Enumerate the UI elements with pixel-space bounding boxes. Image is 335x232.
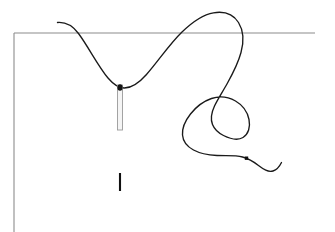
thread-endpoint-dot	[245, 157, 248, 160]
drawing-canvas	[0, 0, 335, 232]
needle-eye	[117, 84, 122, 90]
needle-shaft	[118, 85, 123, 130]
line-drawing-scene	[0, 0, 335, 232]
background	[0, 0, 335, 232]
sewing-needle	[117, 84, 122, 130]
